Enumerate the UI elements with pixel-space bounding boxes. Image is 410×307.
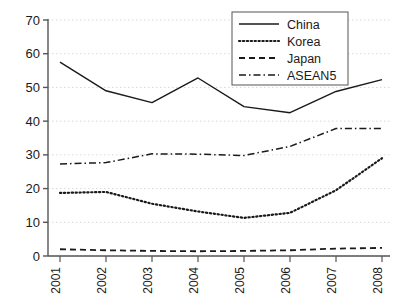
legend-label-asean5[interactable]: ASEAN5 xyxy=(287,69,336,83)
y-tick-label: 20 xyxy=(26,181,40,196)
x-tick-label: 2001 xyxy=(49,267,63,294)
x-tick-label: 2005 xyxy=(233,267,247,294)
y-tick-label: 70 xyxy=(26,13,40,28)
chart-legend: ChinaKoreaJapanASEAN5 xyxy=(232,12,348,85)
x-tick-label: 2006 xyxy=(279,267,293,294)
x-tick-label: 2007 xyxy=(325,267,339,294)
y-tick-label: 10 xyxy=(26,215,40,230)
legend-label-china[interactable]: China xyxy=(287,18,320,32)
chart-canvas: 010203040506070 200120022003200420052006… xyxy=(0,0,410,307)
y-tick-label: 30 xyxy=(26,147,40,162)
legend-label-korea[interactable]: Korea xyxy=(287,35,320,49)
x-tick-label: 2004 xyxy=(187,267,201,294)
legend-label-japan[interactable]: Japan xyxy=(287,52,321,66)
x-tick-label: 2003 xyxy=(141,267,155,294)
x-tick-label: 2008 xyxy=(371,267,385,294)
y-tick-label: 60 xyxy=(26,46,40,61)
y-tick-label: 0 xyxy=(33,249,40,264)
y-tick-label: 50 xyxy=(26,80,40,95)
x-tick-label: 2002 xyxy=(95,267,109,294)
y-tick-label: 40 xyxy=(26,114,40,129)
line-chart: 010203040506070 200120022003200420052006… xyxy=(0,0,410,307)
